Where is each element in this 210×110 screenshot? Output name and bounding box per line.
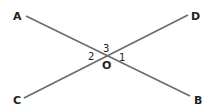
point-d-label: D bbox=[191, 10, 200, 23]
point-b-label: B bbox=[194, 94, 202, 107]
point-c-label: C bbox=[13, 94, 21, 107]
angle-3-label: 3 bbox=[103, 43, 109, 54]
point-a-label: A bbox=[13, 10, 22, 23]
angle-2-label: 2 bbox=[88, 51, 94, 62]
point-o-label: O bbox=[102, 59, 111, 72]
angle-1-label: 1 bbox=[119, 52, 125, 63]
intersecting-lines-diagram: A D C B 3 2 1 O bbox=[0, 0, 210, 110]
